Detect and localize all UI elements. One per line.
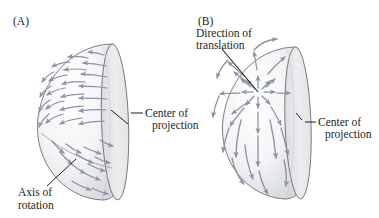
- figure-optic-flow-hemispheres: (A): [0, 0, 379, 218]
- panel-a-label: (A): [13, 15, 29, 28]
- direction-of-translation-line1: Direction of: [196, 27, 252, 39]
- center-of-projection-b-line2: projection: [325, 128, 372, 141]
- axis-of-rotation-line2: rotation: [18, 199, 54, 211]
- axis-of-rotation-line1: Axis of: [18, 186, 52, 198]
- center-of-projection-a-line2: projection: [152, 119, 199, 132]
- direction-of-translation-line2: translation: [196, 39, 245, 51]
- center-of-projection-a-line1: Center of: [145, 107, 188, 119]
- center-of-projection-b-line1: Center of: [318, 116, 361, 128]
